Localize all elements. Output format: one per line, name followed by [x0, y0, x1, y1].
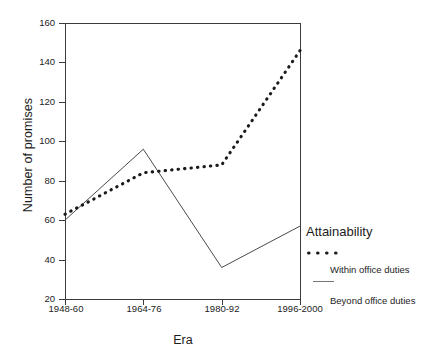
legend-marker-solid-icon — [311, 280, 339, 283]
series-line-beyond-office-duties — [65, 149, 300, 267]
legend-label-within-office-duties: Within office duties — [330, 264, 410, 275]
chart-legend: Attainability — [306, 224, 437, 239]
legend-title: Attainability — [306, 224, 437, 239]
series-line-within-office-duties — [65, 51, 300, 215]
legend-label-beyond-office-duties: Beyond office duties — [330, 295, 415, 306]
legend-marker-dotted-icon — [307, 249, 339, 257]
chart-canvas: 160 140 120 100 80 60 40 20 1948-60 1964… — [0, 0, 437, 359]
